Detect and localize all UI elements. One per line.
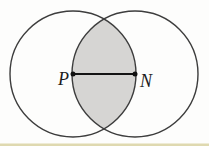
point-N-dot — [133, 72, 138, 77]
point-P-dot — [71, 72, 76, 77]
label-P: P — [57, 69, 69, 89]
label-N: N — [139, 71, 153, 91]
diagram-canvas: P N — [0, 0, 209, 146]
venn-circles-figure: P N — [0, 0, 209, 146]
scan-artifact-strip — [0, 144, 209, 147]
